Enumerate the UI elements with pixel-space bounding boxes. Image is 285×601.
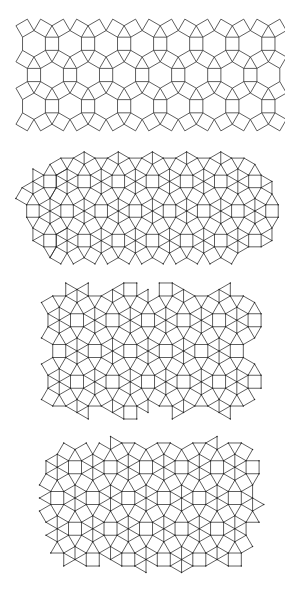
tile-edge: [170, 443, 181, 450]
tile-edge: [82, 474, 93, 481]
tile-vertex: [116, 535, 117, 536]
tile-vertex: [223, 522, 224, 523]
tile-vertex: [74, 510, 75, 511]
tile-edge: [82, 535, 93, 542]
tile-edge: [153, 516, 164, 523]
tile-edge: [82, 522, 93, 529]
tile-edge: [140, 449, 147, 460]
tile-vertex: [245, 535, 246, 536]
tile-edge: [235, 505, 242, 516]
tile-edge: [57, 522, 68, 529]
tile-vertex: [199, 541, 200, 542]
tile-edge: [199, 522, 210, 529]
tile-edge: [64, 485, 75, 492]
tile-edge: [241, 547, 252, 554]
tile-vertex: [234, 515, 235, 516]
tile-vertex: [116, 460, 117, 461]
tile-edge: [241, 492, 252, 499]
tile-edge: [128, 480, 135, 491]
tile-edge: [146, 485, 157, 492]
tile-vertex: [252, 484, 253, 485]
tile-vertex: [92, 541, 93, 542]
tile-edge: [57, 461, 68, 468]
tile-vertex: [192, 442, 193, 443]
tile-edge: [111, 560, 122, 567]
tile-vertex: [92, 467, 93, 468]
tile-vertex: [68, 522, 69, 523]
tile-vertex: [74, 484, 75, 485]
tile-vertex: [199, 480, 200, 481]
tile-edge: [64, 560, 75, 567]
tile-edge: [86, 443, 93, 454]
tile-edge: [117, 454, 128, 461]
tile-vertex: [192, 491, 193, 492]
tile-edge: [182, 474, 189, 485]
tile-edge: [193, 505, 200, 516]
tile-edge: [117, 535, 128, 542]
tile-vertex: [45, 535, 46, 536]
tile-vertex: [110, 559, 111, 560]
tile-edge: [157, 505, 164, 516]
tile-vertex: [258, 460, 259, 461]
tile-vertex: [99, 552, 100, 553]
tile-edge: [69, 474, 76, 485]
tile-edge: [128, 443, 135, 454]
tile-edge: [117, 467, 128, 474]
tile-edge: [164, 461, 175, 468]
tile-edge: [69, 449, 76, 460]
tile-vertex: [103, 473, 104, 474]
tile-edge: [228, 505, 235, 516]
tile-edge: [224, 467, 235, 474]
tile-edge: [235, 522, 246, 529]
tile-edge: [93, 480, 100, 491]
tile-edge: [117, 474, 128, 481]
tile-vertex: [145, 572, 146, 573]
tile-edge: [170, 560, 181, 567]
tile-edge: [122, 443, 129, 454]
tile-vertex: [241, 442, 242, 443]
tile-edge: [206, 498, 217, 505]
tile-edge: [93, 454, 104, 461]
tile-edge: [182, 449, 189, 460]
tile-edge: [135, 566, 146, 573]
tile-edge: [39, 511, 46, 522]
tile-edge: [235, 454, 246, 461]
tile-vertex: [74, 546, 75, 547]
tile-edge: [193, 542, 200, 553]
tile-edge: [51, 480, 58, 491]
tile-vertex: [57, 515, 58, 516]
tile-edge: [82, 461, 93, 468]
tile-edge: [246, 535, 253, 546]
tile-edge: [153, 522, 164, 529]
tile-edge: [57, 467, 68, 474]
tile-edge: [193, 443, 200, 454]
tile-vertex: [223, 473, 224, 474]
tile-vertex: [181, 572, 182, 573]
tile-edge: [146, 547, 157, 554]
tile-edge: [75, 547, 86, 554]
tile-edge: [199, 542, 206, 553]
tile-edge: [128, 461, 139, 468]
tile-edge: [128, 535, 139, 542]
tile-vertex: [68, 535, 69, 536]
tile-vertex: [187, 473, 188, 474]
tile-edge: [188, 535, 199, 542]
tile-vertex: [241, 552, 242, 553]
tile-edge: [182, 566, 193, 573]
tile-edge: [241, 505, 252, 512]
tile-edge: [164, 516, 175, 523]
tile-edge: [170, 547, 181, 554]
tile-edge: [164, 474, 175, 481]
tile-vertex: [199, 528, 200, 529]
tile-edge: [153, 461, 164, 468]
tile-edge: [235, 480, 242, 491]
tile-edge: [64, 505, 75, 512]
tile-vertex: [45, 473, 46, 474]
tile-edge: [140, 474, 147, 485]
tile-edge: [228, 443, 235, 454]
tile-vertex: [152, 460, 153, 461]
tile-vertex: [128, 480, 129, 481]
tile-vertex: [63, 442, 64, 443]
tile-edge: [82, 454, 93, 461]
tile-edge: [199, 474, 210, 481]
